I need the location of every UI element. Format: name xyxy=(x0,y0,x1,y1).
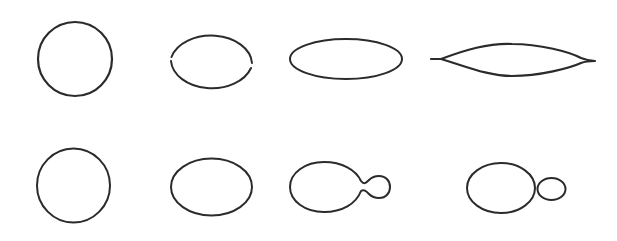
shape-lens xyxy=(431,44,595,76)
row-elongation-sequence xyxy=(38,22,595,96)
shape-ellipse-elongated xyxy=(290,39,402,79)
shape-budding xyxy=(290,162,390,212)
row-budding-sequence xyxy=(37,149,566,223)
shape-ellipse-broken xyxy=(171,36,252,89)
shape-ellipse-2 xyxy=(171,159,252,216)
shape-diagram xyxy=(0,0,617,241)
shape-separated xyxy=(467,163,566,213)
shape-separated-small xyxy=(538,178,566,200)
shape-separated-large xyxy=(467,163,535,213)
shape-circle-2 xyxy=(37,149,110,223)
diagram-canvas xyxy=(0,0,617,241)
shape-circle-1 xyxy=(38,22,112,96)
